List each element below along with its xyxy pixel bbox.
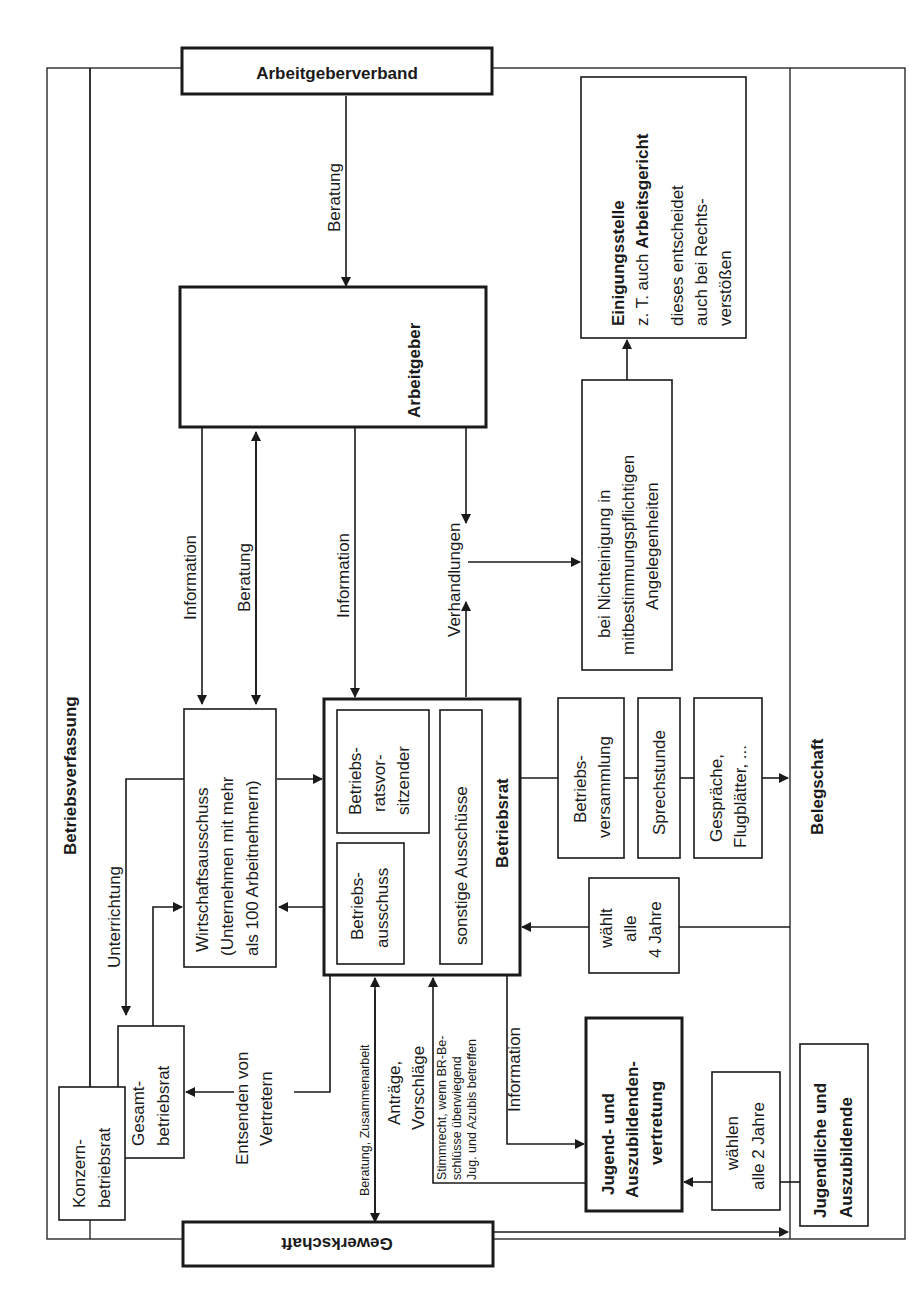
svg-text:Gewerkschaft: Gewerkschaft bbox=[281, 1234, 393, 1253]
node-jugendliche[interactable]: Jugendliche und Auszubildende bbox=[800, 1044, 868, 1226]
svg-text:ratsvor-: ratsvor- bbox=[370, 754, 389, 812]
node-betriebsversammlung[interactable]: Betriebs- versammlung bbox=[558, 698, 624, 858]
svg-text:Angelegenheiten: Angelegenheiten bbox=[643, 482, 662, 610]
edge-gbr-to-wa bbox=[153, 907, 182, 1026]
svg-text:Gesamt-: Gesamt- bbox=[129, 1081, 148, 1146]
svg-text:Einigungsstelle: Einigungsstelle bbox=[609, 200, 628, 326]
svg-text:bei Nichteinigung in: bei Nichteinigung in bbox=[595, 490, 614, 638]
svg-text:Betriebs-: Betriebs- bbox=[571, 755, 590, 823]
label-entsenden: Entsenden von bbox=[233, 1052, 252, 1165]
label-beratung-zusammenarbeit: Beratung, Zusammenarbeit bbox=[358, 1044, 372, 1196]
label-verhandlungen: Verhandlungen bbox=[445, 523, 464, 637]
node-jav[interactable]: Jugend- und Auszubildenden- vertretung bbox=[586, 1018, 682, 1211]
svg-text:4 Jahre: 4 Jahre bbox=[646, 901, 665, 958]
svg-text:dieses entscheidet: dieses entscheidet bbox=[668, 185, 687, 326]
svg-text:Wirtschaftsausschuss: Wirtschaftsausschuss bbox=[193, 788, 212, 952]
svg-text:als 100 Arbeitnehmern): als 100 Arbeitnehmern) bbox=[243, 780, 262, 956]
node-waehlt-4-jahre[interactable]: wählt alle 4 Jahre bbox=[589, 878, 679, 973]
node-arbeitgeber[interactable]: Arbeitgeber bbox=[180, 287, 486, 427]
svg-text:Jug. und Azubis betreffen: Jug. und Azubis betreffen bbox=[465, 1039, 479, 1180]
svg-text:Gespräche,: Gespräche, bbox=[707, 754, 726, 842]
label-information-jav: Information bbox=[505, 1027, 524, 1112]
belegschaft-label: Belegschaft bbox=[808, 738, 827, 835]
svg-text:z. T. auch Arbeitsgericht: z. T. auch Arbeitsgericht bbox=[633, 133, 652, 326]
svg-text:alle 2 Jahre: alle 2 Jahre bbox=[749, 1102, 768, 1190]
svg-text:Arbeitgeber: Arbeitgeber bbox=[405, 322, 424, 418]
node-gespraeche[interactable]: Gespräche, Flugblätter, ... bbox=[694, 698, 762, 858]
svg-text:Vertretern: Vertretern bbox=[257, 1071, 276, 1146]
svg-text:Betriebs-: Betriebs- bbox=[346, 747, 365, 815]
label-unterrichtung: Unterrichtung bbox=[105, 866, 124, 968]
betriebsverfassung-diagram: Betriebsverfassung Belegschaft Arbeitgeb… bbox=[0, 0, 924, 1309]
svg-text:sitzender: sitzender bbox=[394, 746, 413, 815]
label-beratung-verband: Beratung bbox=[325, 163, 344, 232]
svg-text:Jugendliche und: Jugendliche und bbox=[811, 1083, 830, 1218]
svg-text:Auszubildende: Auszubildende bbox=[837, 1097, 856, 1218]
svg-text:Sprechstunde: Sprechstunde bbox=[650, 730, 669, 835]
node-nichteinigung[interactable]: bei Nichteinigung in mitbestimmungspflic… bbox=[582, 380, 672, 670]
svg-text:Vorschläge: Vorschläge bbox=[409, 1046, 428, 1130]
svg-text:Arbeitgeberverband: Arbeitgeberverband bbox=[256, 64, 418, 83]
label-information-br: Information bbox=[334, 533, 353, 618]
svg-text:Jugend- und: Jugend- und bbox=[599, 1093, 618, 1195]
frame-label: Betriebsverfassung bbox=[61, 696, 80, 855]
svg-text:sonstige Ausschüsse: sonstige Ausschüsse bbox=[452, 786, 471, 945]
node-einigungsstelle[interactable]: Einigungsstelle z. T. auch Arbeitsgerich… bbox=[581, 77, 746, 338]
node-gewerkschaft[interactable]: Gewerkschaft bbox=[183, 1222, 493, 1266]
svg-text:schlüsse überwiegend: schlüsse überwiegend bbox=[450, 1056, 464, 1180]
svg-text:Betriebs-: Betriebs- bbox=[348, 872, 367, 940]
node-gesamtbetriebsrat[interactable]: Gesamt- betriebsrat bbox=[118, 1026, 184, 1158]
label-antraege: Anträge, bbox=[385, 1061, 404, 1125]
svg-text:Betriebsrat: Betriebsrat bbox=[493, 778, 512, 868]
svg-text:wählt: wählt bbox=[597, 908, 616, 949]
node-betriebsratsvorsitzender: Betriebs- ratsvor- sitzender bbox=[337, 710, 429, 833]
node-sonstige-ausschuesse: sonstige Ausschüsse bbox=[440, 710, 482, 964]
svg-text:Flugblätter, ...: Flugblätter, ... bbox=[731, 745, 750, 848]
edge-entsenden bbox=[294, 975, 330, 1092]
label-beratung-wa: Beratung bbox=[235, 543, 254, 612]
node-wirtschaftsausschuss[interactable]: Wirtschaftsausschuss (Unternehmen mit me… bbox=[184, 709, 276, 967]
node-konzernbetriebsrat[interactable]: Konzern- betriebsrat bbox=[59, 1087, 125, 1220]
node-betriebsausschuss: Betriebs- ausschuss bbox=[337, 843, 404, 964]
svg-text:mitbestimmungspflichtigen: mitbestimmungspflichtigen bbox=[619, 455, 638, 655]
svg-text:(Unternehmen mit mehr: (Unternehmen mit mehr bbox=[218, 776, 237, 956]
node-sprechstunde[interactable]: Sprechstunde bbox=[638, 698, 680, 858]
label-information-wa: Information bbox=[181, 535, 200, 620]
svg-text:verstößen: verstößen bbox=[716, 250, 735, 326]
svg-text:vertretung: vertretung bbox=[647, 1081, 666, 1165]
svg-text:auch bei Rechts-: auch bei Rechts- bbox=[692, 198, 711, 326]
svg-text:ausschuss: ausschuss bbox=[373, 868, 392, 948]
node-arbeitgeberverband[interactable]: Arbeitgeberverband bbox=[182, 48, 492, 94]
svg-text:betriebsrat: betriebsrat bbox=[154, 1065, 173, 1146]
label-stimmrecht: Stimmrecht, wenn BR-Be- bbox=[435, 1036, 449, 1180]
node-betriebsrat[interactable]: Betriebsrat Betriebs- ratsvor- sitzender… bbox=[324, 699, 520, 975]
svg-text:Auszubildenden-: Auszubildenden- bbox=[623, 1061, 642, 1198]
node-waehlen-2-jahre[interactable]: wählen alle 2 Jahre bbox=[712, 1072, 780, 1210]
svg-text:versammlung: versammlung bbox=[595, 736, 614, 838]
svg-text:alle: alle bbox=[621, 916, 640, 942]
svg-text:Konzern-: Konzern- bbox=[70, 1139, 89, 1208]
edge-unterrichtung bbox=[126, 779, 184, 1015]
svg-text:betriebsrat: betriebsrat bbox=[95, 1127, 114, 1208]
svg-text:wählen: wählen bbox=[723, 1116, 742, 1171]
